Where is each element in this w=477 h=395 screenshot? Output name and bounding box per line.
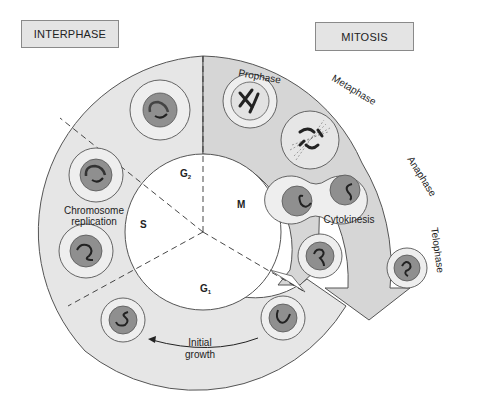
- cell-s-lower: [59, 224, 113, 278]
- chromosome-replication-label-1: Chromosome: [64, 205, 124, 216]
- cell-g2: [130, 80, 190, 140]
- stage-anaphase: Anaphase: [405, 154, 438, 198]
- stage-metaphase: Metaphase: [330, 72, 378, 107]
- cell-metaphase: [281, 111, 339, 169]
- chromosome-replication-label-2: replication: [71, 216, 117, 227]
- phase-s-label: S: [140, 219, 147, 230]
- cytokinesis-label: Cytokinesis: [323, 214, 374, 225]
- initial-growth-label-2: growth: [185, 349, 215, 360]
- stage-telophase: Telophase: [429, 227, 446, 274]
- phase-m-label: M: [237, 199, 245, 210]
- cell-cycle-diagram: G2 S M G1: [0, 0, 477, 395]
- cell-daughter-left: [298, 234, 342, 278]
- cell-telophase: [387, 248, 427, 288]
- cell-g1-left: [101, 298, 145, 342]
- cell-s-upper: [69, 148, 123, 202]
- cell-g1-right: [261, 296, 305, 340]
- initial-growth-label-1: Initial: [188, 337, 211, 348]
